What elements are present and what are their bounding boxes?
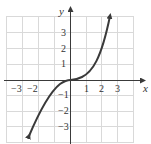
y-axis-label: y: [58, 5, 64, 17]
axes: [4, 9, 143, 144]
svg-text:3: 3: [115, 83, 120, 94]
svg-text:1: 1: [61, 58, 66, 69]
cubic-curve: [29, 16, 110, 136]
svg-text:−3: −3: [58, 121, 69, 132]
svg-text:−2: −2: [27, 83, 38, 94]
svg-text:−2: −2: [58, 105, 69, 116]
svg-text:−3: −3: [11, 83, 22, 94]
svg-text:2: 2: [61, 43, 66, 54]
svg-text:−1: −1: [58, 89, 69, 100]
x-axis-label: x: [142, 82, 148, 94]
cubic-graph: x y −3 −2 1 2 3 3 2 1 −1 −2 −3: [0, 0, 151, 144]
svg-text:2: 2: [99, 83, 104, 94]
svg-text:1: 1: [84, 83, 89, 94]
svg-text:3: 3: [61, 27, 66, 38]
